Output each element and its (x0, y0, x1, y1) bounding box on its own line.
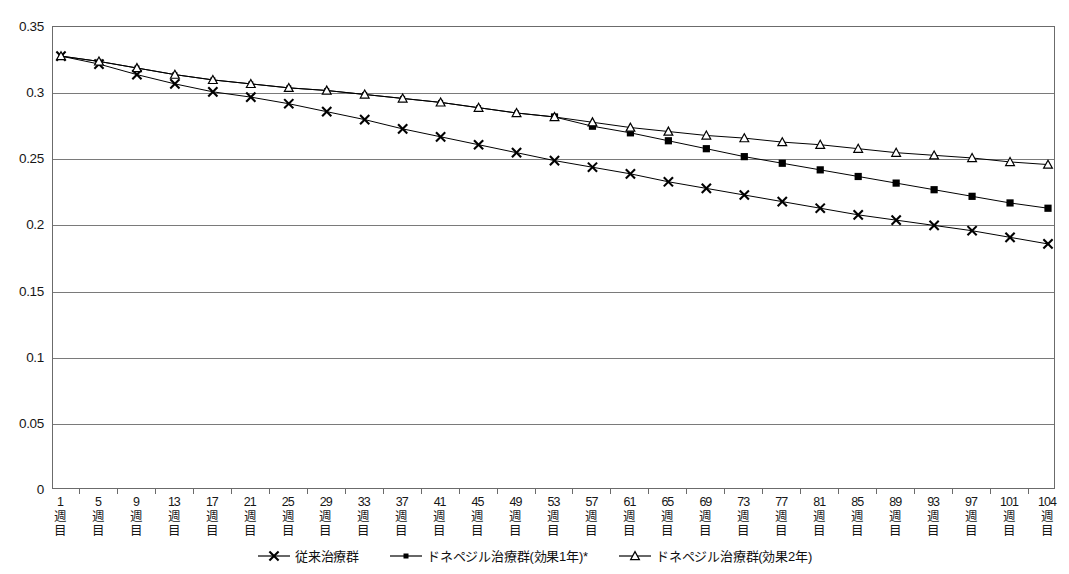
x-axis-label-unit: 週 (506, 510, 526, 525)
x-tick (990, 489, 991, 494)
x-tick (307, 489, 308, 494)
x-axis-label-ordinal: 目 (88, 524, 108, 539)
chart-legend: 従来治療群ドネペジル治療群(効果1年)*ドネペジル治療群(効果2年) (0, 546, 1069, 565)
y-tick-label: 0 (37, 482, 44, 497)
data-point-marker (931, 186, 938, 193)
x-axis-label: 21週目 (240, 495, 260, 539)
x-axis-label-ordinal: 目 (316, 524, 336, 539)
data-point-marker (968, 193, 975, 200)
data-point-marker (893, 179, 900, 186)
legend-item-2[interactable]: ドネペジル治療群(効果1年)* (389, 546, 588, 565)
data-point-marker (1043, 239, 1052, 248)
x-axis-label-ordinal: 目 (695, 524, 715, 539)
data-point-marker (816, 204, 825, 213)
x-axis-label-number: 61 (619, 495, 639, 510)
data-point-marker (588, 163, 597, 172)
x-axis-label-ordinal: 目 (657, 524, 677, 539)
x-axis-label-ordinal: 目 (847, 524, 867, 539)
x-axis-label-unit: 週 (240, 510, 260, 525)
x-axis-label-number: 25 (278, 495, 298, 510)
legend-marker-filled-square-icon (389, 549, 423, 563)
x-axis-label-ordinal: 目 (544, 524, 564, 539)
x-axis-label-unit: 週 (1037, 510, 1057, 525)
x-axis-label: 33週目 (354, 495, 374, 539)
x-axis-label-number: 73 (733, 495, 753, 510)
x-axis-label: 73週目 (733, 495, 753, 539)
x-axis-label-number: 21 (240, 495, 260, 510)
x-tick (914, 489, 915, 494)
x-axis-label: 85週目 (847, 495, 867, 539)
y-tick-label: 0.15 (19, 283, 44, 298)
legend-label: 従来治療群 (295, 546, 359, 565)
x-axis-label-number: 77 (771, 495, 791, 510)
x-axis-label: 89週目 (885, 495, 905, 539)
data-point-marker (360, 115, 369, 124)
x-axis-label: 29週目 (316, 495, 336, 539)
data-point-marker (436, 132, 445, 141)
x-tick (610, 489, 611, 494)
x-axis-label-number: 17 (202, 495, 222, 510)
x-axis: 1週目5週目9週目13週目17週目21週目25週目29週目33週目37週目41週… (52, 489, 1055, 549)
data-point-marker (741, 153, 748, 160)
plot-area (52, 26, 1055, 489)
data-point-marker (664, 177, 673, 186)
x-axis-label-number: 53 (544, 495, 564, 510)
x-tick (79, 489, 80, 494)
x-axis-label-number: 85 (847, 495, 867, 510)
x-axis-label: 57週目 (581, 495, 601, 539)
y-tick-label: 0.05 (19, 415, 44, 430)
x-axis-label-number: 93 (923, 495, 943, 510)
legend-item-1[interactable]: 従来治療群 (257, 546, 359, 565)
x-axis-label-number: 37 (392, 495, 412, 510)
x-axis-label-ordinal: 目 (392, 524, 412, 539)
data-point-marker (817, 166, 824, 173)
x-axis-label: 1週目 (50, 495, 70, 539)
x-axis-label-ordinal: 目 (430, 524, 450, 539)
x-tick (838, 489, 839, 494)
x-tick (155, 489, 156, 494)
x-axis-label-number: 57 (581, 495, 601, 510)
x-tick (535, 489, 536, 494)
x-axis-label-number: 81 (809, 495, 829, 510)
x-axis-label-number: 1 (50, 495, 70, 510)
x-axis-label-ordinal: 目 (961, 524, 981, 539)
x-axis-label-unit: 週 (50, 510, 70, 525)
chart-container: 00.050.10.150.20.250.30.35 1週目5週目9週目13週目… (0, 0, 1069, 574)
x-axis-label-unit: 週 (809, 510, 829, 525)
x-axis-label: 25週目 (278, 495, 298, 539)
x-axis-label: 104週目 (1037, 495, 1057, 539)
x-axis-label: 45週目 (468, 495, 488, 539)
x-axis-label: 13週目 (164, 495, 184, 539)
x-axis-label-unit: 週 (581, 510, 601, 525)
x-tick (686, 489, 687, 494)
x-tick (800, 489, 801, 494)
x-axis-label-unit: 週 (278, 510, 298, 525)
x-axis-label-ordinal: 目 (126, 524, 146, 539)
x-axis-label-number: 5 (88, 495, 108, 510)
x-axis-label-unit: 週 (354, 510, 374, 525)
x-axis-label-number: 97 (961, 495, 981, 510)
x-tick (383, 489, 384, 494)
data-point-marker (1044, 205, 1051, 212)
x-axis-label-unit: 週 (316, 510, 336, 525)
x-axis-label-number: 49 (506, 495, 526, 510)
x-axis-label-number: 101 (999, 495, 1019, 510)
x-axis-label: 17週目 (202, 495, 222, 539)
x-axis-label-unit: 週 (695, 510, 715, 525)
x-axis-label-unit: 週 (202, 510, 222, 525)
x-axis-label-ordinal: 目 (581, 524, 601, 539)
x-axis-label-number: 33 (354, 495, 374, 510)
x-tick (1028, 489, 1029, 494)
y-tick-label: 0.35 (19, 19, 44, 34)
x-axis-label-unit: 週 (430, 510, 450, 525)
x-axis-label-number: 89 (885, 495, 905, 510)
x-axis-label: 61週目 (619, 495, 639, 539)
x-tick (269, 489, 270, 494)
legend-item-3[interactable]: ドネペジル治療群(効果2年) (618, 546, 812, 565)
x-axis-label: 97週目 (961, 495, 981, 539)
data-point-marker (740, 190, 749, 199)
y-tick-label: 0.2 (26, 217, 44, 232)
x-axis-label-number: 9 (126, 495, 146, 510)
x-axis-label-number: 104 (1037, 495, 1057, 510)
legend-label: ドネペジル治療群(効果1年)* (427, 546, 588, 565)
